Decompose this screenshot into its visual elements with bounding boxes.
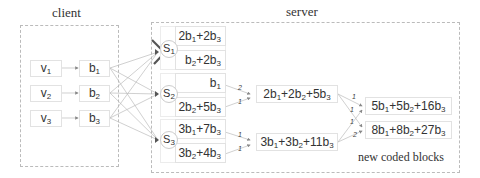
- block-b3: b3: [79, 110, 110, 127]
- server-node-s3: S3: [160, 131, 178, 149]
- intermediate-block-2: 3b1+3b2+11b3: [256, 133, 338, 151]
- weight-label: 1: [350, 106, 354, 113]
- block-label: 3b2+4b3: [178, 146, 221, 161]
- block-b2: b2: [79, 85, 110, 102]
- intermediate-block-1: 2b1+2b2+5b3: [256, 85, 338, 103]
- block-label: b2: [89, 86, 100, 101]
- source-v2: v2: [30, 85, 62, 102]
- weight-label: 1: [352, 93, 356, 100]
- s1-block-2: b2+2b3: [175, 50, 226, 70]
- server-node-s2: S2: [160, 85, 178, 103]
- block-label: 8b1+8b2+27b3: [371, 123, 445, 138]
- block-label: b2+2b3: [185, 53, 221, 68]
- block-label: b1: [210, 76, 221, 91]
- node-label: S3: [163, 133, 175, 147]
- weight-label: 1: [238, 131, 242, 138]
- block-b1: b1: [79, 60, 110, 77]
- block-label: 5b1+5b2+16b3: [371, 99, 445, 114]
- block-label: 3b1+3b2+11b3: [260, 135, 333, 150]
- source-v1: v1: [30, 60, 62, 77]
- source-label: v1: [41, 61, 51, 76]
- block-label: 2b2+5b3: [178, 100, 221, 115]
- block-label: 2b1+2b2+5b3: [263, 87, 330, 102]
- server-node-s1: S1: [160, 40, 178, 58]
- new-block-1: 5b1+5b2+16b3: [365, 97, 452, 115]
- block-label: 3b1+7b3: [178, 122, 221, 137]
- block-label: b1: [89, 61, 100, 76]
- new-blocks-caption: new coded blocks: [358, 150, 444, 165]
- s3-block-2: 3b2+4b3: [175, 143, 226, 163]
- node-label: S2: [163, 87, 175, 101]
- s2-block-2: 2b2+5b3: [175, 97, 226, 117]
- source-label: v3: [41, 111, 51, 126]
- weight-label: 1: [238, 98, 242, 105]
- new-block-2: 8b1+8b2+27b3: [365, 121, 452, 139]
- source-v3: v3: [30, 110, 62, 127]
- s1-block-1: 2b1+2b3: [175, 26, 226, 46]
- s3-block-1: 3b1+7b3: [175, 119, 226, 139]
- weight-label: 1: [350, 118, 354, 125]
- block-label: b3: [89, 111, 100, 126]
- weight-label: 1: [238, 145, 242, 152]
- weight-label: 2: [353, 131, 357, 138]
- node-label: S1: [163, 42, 175, 56]
- source-label: v2: [41, 86, 51, 101]
- block-label: 2b1+2b3: [178, 29, 221, 44]
- weight-label: 2: [238, 84, 242, 91]
- s2-block-1: b1: [175, 73, 226, 93]
